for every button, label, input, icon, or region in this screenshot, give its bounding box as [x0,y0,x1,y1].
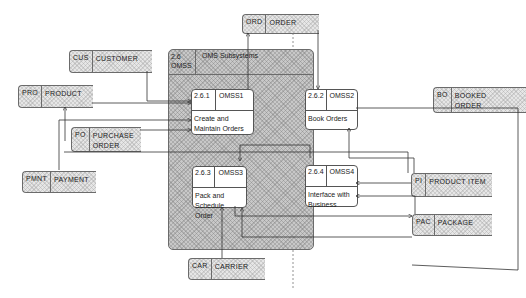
data-flow-lines [0,0,525,298]
dfd-canvas: 2.6 OMSS OMS Subsystems 2.6.1OMSS1 Creat… [0,0,525,298]
